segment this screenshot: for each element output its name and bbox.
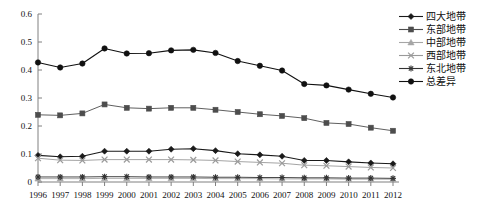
x-tick-label: 2009 <box>317 190 336 200</box>
legend-label-0: 四大地带 <box>424 10 466 23</box>
x-tick-label: 1997 <box>51 190 70 200</box>
legend-marker-cross-icon <box>398 49 424 62</box>
legend-marker-star-icon <box>398 62 424 75</box>
data-point-circle <box>191 47 196 52</box>
data-point-square <box>302 116 307 121</box>
data-point-circle <box>235 58 240 63</box>
data-point-square <box>257 112 262 117</box>
data-point-square <box>146 106 151 111</box>
data-point-star <box>35 174 41 180</box>
data-point-star <box>57 174 63 180</box>
x-tick-label: 2002 <box>162 190 180 200</box>
legend-label-1: 东部地带 <box>424 23 466 36</box>
x-tick-label: 2011 <box>362 190 380 200</box>
y-tick-label: 0.5 <box>21 37 33 47</box>
legend-label-3: 西部地带 <box>424 49 466 62</box>
legend-marker-diamond-icon <box>398 10 424 23</box>
data-point-circle <box>257 63 262 68</box>
data-point-diamond <box>146 148 152 154</box>
data-point-circle <box>324 83 329 88</box>
data-point-diamond <box>408 14 414 20</box>
data-point-diamond <box>257 152 263 158</box>
x-tick-label: 2001 <box>140 190 158 200</box>
x-tick-label: 1996 <box>29 190 48 200</box>
x-tick-label: 1999 <box>96 190 115 200</box>
legend-marker-circle-icon <box>398 75 424 88</box>
data-point-square <box>80 111 85 116</box>
data-point-square <box>169 105 174 110</box>
y-tick-label: 0.4 <box>21 65 33 75</box>
data-point-circle <box>80 61 85 66</box>
data-point-star <box>408 66 414 72</box>
data-point-star <box>346 175 352 181</box>
series-0 <box>35 146 396 167</box>
legend-item-4[interactable]: 东北地带 <box>398 62 490 75</box>
data-point-diamond <box>102 148 108 154</box>
series-1 <box>36 102 396 133</box>
legend-item-0[interactable]: 四大地带 <box>398 10 490 23</box>
data-point-diamond <box>124 148 130 154</box>
data-point-circle <box>102 46 107 51</box>
legend-label-5: 总差异 <box>424 75 456 88</box>
data-point-circle <box>146 51 151 56</box>
data-point-square <box>346 122 351 127</box>
data-point-star <box>279 175 285 181</box>
series-3 <box>35 155 396 171</box>
data-point-circle <box>213 50 218 55</box>
data-point-square <box>391 128 396 133</box>
data-point-square <box>368 125 373 130</box>
x-tick-label: 2000 <box>118 190 137 200</box>
data-point-diamond <box>168 146 174 152</box>
x-tick-label: 2010 <box>340 190 359 200</box>
legend-marker-square-icon <box>398 23 424 36</box>
data-point-circle <box>57 65 62 70</box>
x-tick-label: 2004 <box>207 190 226 200</box>
legend-marker-triangle-icon <box>398 36 424 49</box>
x-tick-label: 2008 <box>295 190 314 200</box>
data-point-square <box>124 105 129 110</box>
x-tick-label: 2005 <box>229 190 248 200</box>
y-tick-label: 0.3 <box>21 93 33 103</box>
data-point-diamond <box>235 151 241 157</box>
data-point-circle <box>168 48 173 53</box>
data-point-square <box>36 112 41 117</box>
legend-item-1[interactable]: 东部地带 <box>398 23 490 36</box>
legend-label-2: 中部地带 <box>424 36 466 49</box>
data-point-square <box>409 27 414 32</box>
x-tick-label: 2012 <box>384 190 402 200</box>
legend-item-3[interactable]: 西部地带 <box>398 49 490 62</box>
y-tick-label: 0.6 <box>21 9 33 19</box>
y-tick-label: 0 <box>28 177 33 187</box>
legend-label-4: 东北地带 <box>424 62 466 75</box>
data-point-star <box>102 174 108 180</box>
legend-item-5[interactable]: 总差异 <box>398 75 490 88</box>
y-tick-label: 0.2 <box>21 121 32 131</box>
data-point-star <box>257 175 263 181</box>
legend-item-2[interactable]: 中部地带 <box>398 36 490 49</box>
data-point-star <box>235 174 241 180</box>
data-point-star <box>79 174 85 180</box>
data-point-circle <box>346 87 351 92</box>
data-point-diamond <box>190 146 196 152</box>
y-tick-label: 0.1 <box>21 149 32 159</box>
x-tick-label: 1998 <box>73 190 92 200</box>
data-point-circle <box>35 60 40 65</box>
series-4 <box>35 174 396 182</box>
data-point-star <box>124 174 130 180</box>
x-tick-label: 2003 <box>184 190 203 200</box>
data-point-star <box>213 174 219 180</box>
data-point-circle <box>302 81 307 86</box>
data-point-diamond <box>213 148 219 154</box>
data-point-square <box>324 120 329 125</box>
data-point-square <box>280 113 285 118</box>
data-point-star <box>190 174 196 180</box>
data-point-star <box>323 175 329 181</box>
data-point-star <box>368 175 374 181</box>
data-point-square <box>102 102 107 107</box>
data-point-square <box>191 105 196 110</box>
line-chart: 00.10.20.30.40.50.6199619971998199920002… <box>0 0 494 214</box>
x-tick-label: 2007 <box>273 190 292 200</box>
data-point-square <box>235 110 240 115</box>
series-5 <box>35 46 395 100</box>
data-point-diamond <box>323 157 329 163</box>
